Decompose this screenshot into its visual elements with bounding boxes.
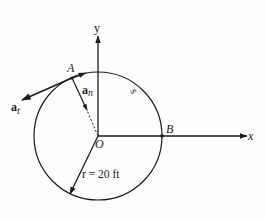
arc-length-label: s (128, 86, 141, 96)
point-A-dot (70, 76, 73, 79)
tangential-acceleration-label: at (11, 100, 20, 116)
point-B-dot (160, 134, 164, 138)
x-axis-label: x (247, 129, 254, 143)
point-A-label: A (66, 61, 75, 75)
radius-label: r = 20 ft (82, 168, 120, 180)
point-B-label: B (166, 122, 174, 136)
radius-vector (70, 136, 98, 194)
normal-acceleration-label: an (82, 83, 93, 98)
y-axis-label: y (94, 21, 100, 35)
circular-motion-diagram: y x O A B an at s r = 20 ft (0, 0, 265, 220)
normal-acceleration-dash (86, 108, 98, 136)
origin-label: O (95, 137, 104, 151)
